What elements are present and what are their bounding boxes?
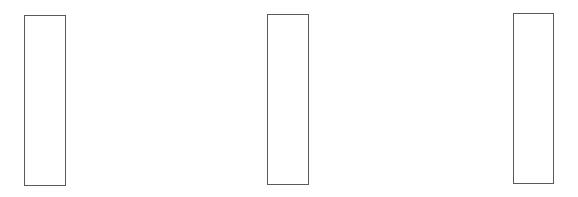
middle-box xyxy=(267,14,309,185)
right-box xyxy=(513,13,554,184)
diagram-canvas xyxy=(0,0,578,197)
left-box xyxy=(24,15,66,186)
